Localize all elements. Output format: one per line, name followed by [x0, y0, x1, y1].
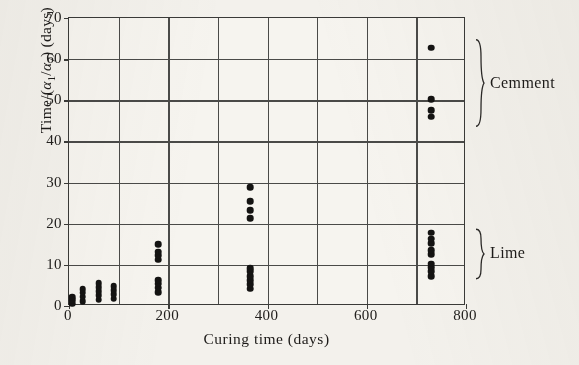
- data-point: [428, 260, 435, 267]
- data-point: [155, 277, 162, 284]
- data-point: [247, 265, 254, 272]
- data-point: [428, 44, 435, 51]
- gridline-horizontal: [69, 59, 464, 60]
- data-point: [428, 229, 435, 236]
- y-axis-tick-label: 10: [46, 255, 62, 272]
- y-axis-tick: [64, 100, 69, 101]
- gridline-vertical: [168, 18, 169, 304]
- y-axis-tick-label: 40: [46, 132, 62, 149]
- curly-brace-icon: [474, 38, 485, 129]
- x-axis-tick-label: 600: [354, 307, 378, 324]
- data-point: [247, 207, 254, 214]
- y-axis-tick-label: 20: [46, 214, 62, 231]
- x-axis-tick-label: 0: [64, 307, 72, 324]
- y-axis-tick: [64, 141, 69, 142]
- y-axis-tick-label: 60: [46, 50, 62, 67]
- gridline-horizontal: [69, 141, 464, 142]
- x-axis-tick-label: 400: [255, 307, 279, 324]
- gridline-horizontal: [69, 100, 464, 101]
- data-point: [428, 235, 435, 242]
- y-axis-tick: [64, 265, 69, 266]
- data-point: [428, 107, 435, 114]
- group-annotation: Lime: [474, 227, 525, 280]
- gridline-vertical: [367, 18, 368, 304]
- data-point: [428, 113, 435, 120]
- gridline-vertical: [218, 18, 219, 304]
- x-axis-tick-label: 800: [453, 307, 477, 324]
- y-axis-tick-label: 70: [46, 9, 62, 26]
- chart-figure: Curing time (days) Time/(α1/α7) (days) 0…: [0, 0, 579, 365]
- y-axis-tick-label: 0: [54, 297, 62, 314]
- data-point: [80, 286, 87, 293]
- data-point: [155, 241, 162, 248]
- data-point: [155, 248, 162, 255]
- data-point: [247, 198, 254, 205]
- data-point: [428, 247, 435, 254]
- y-axis-tick: [64, 18, 69, 19]
- curly-brace-icon: [474, 227, 485, 280]
- data-point: [247, 184, 254, 191]
- group-annotation-label: Lime: [490, 245, 525, 263]
- gridline-vertical: [119, 18, 120, 304]
- gridline-vertical: [317, 18, 318, 304]
- gridline-vertical: [416, 18, 417, 304]
- data-point: [428, 96, 435, 103]
- gridline-horizontal: [69, 265, 464, 266]
- y-axis-tick-label: 50: [46, 91, 62, 108]
- group-annotation: Cemment: [474, 38, 555, 129]
- y-axis-tick-label: 30: [46, 173, 62, 190]
- data-point: [110, 283, 117, 290]
- data-point: [95, 280, 102, 287]
- y-axis-tick: [64, 59, 69, 60]
- y-axis-tick: [64, 224, 69, 225]
- x-axis-title: Curing time (days): [68, 330, 465, 348]
- gridline-horizontal: [69, 224, 464, 225]
- y-axis-tick: [64, 183, 69, 184]
- plot-area: [68, 17, 465, 305]
- x-axis-tick-label: 200: [155, 307, 179, 324]
- group-annotation-label: Cemment: [490, 74, 555, 92]
- data-point: [247, 215, 254, 222]
- data-point: [69, 294, 76, 301]
- gridline-vertical: [268, 18, 269, 304]
- gridline-horizontal: [69, 183, 464, 184]
